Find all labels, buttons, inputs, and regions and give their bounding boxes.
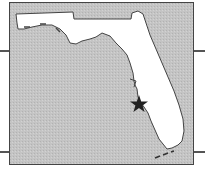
connector-line-right-top bbox=[194, 50, 205, 52]
map-frame bbox=[9, 2, 194, 165]
connector-line-right-bottom bbox=[194, 151, 205, 153]
florida-map bbox=[10, 3, 194, 165]
